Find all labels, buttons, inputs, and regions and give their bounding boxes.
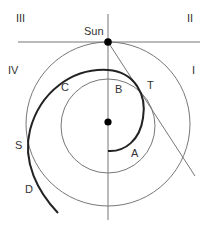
spiral-path-curve xyxy=(28,70,144,213)
sun-label: Sun xyxy=(84,25,104,37)
tangent-line xyxy=(108,42,195,176)
point-label-d: D xyxy=(25,183,33,195)
sun-dot xyxy=(104,38,112,46)
point-label-b: B xyxy=(115,83,122,95)
quadrant-label-iv: IV xyxy=(8,64,19,76)
quadrant-label-ii: II xyxy=(187,12,193,24)
point-label-c: C xyxy=(61,81,69,93)
point-label-t: T xyxy=(147,79,154,91)
center-dot xyxy=(104,118,111,125)
point-label-a: A xyxy=(131,147,139,159)
point-label-s: S xyxy=(15,139,22,151)
orbit-diagram: III II IV I Sun C B T A S D xyxy=(0,0,210,228)
quadrant-label-i: I xyxy=(192,64,195,76)
quadrant-label-iii: III xyxy=(16,12,25,24)
